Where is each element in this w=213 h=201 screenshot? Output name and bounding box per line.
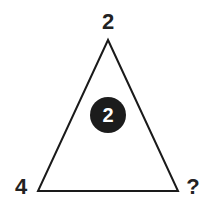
bottom-right-label: ?	[186, 174, 199, 199]
triangle-puzzle-diagram: 2 2 4 ?	[0, 0, 213, 201]
bottom-left-label: 4	[15, 174, 28, 199]
center-value: 2	[102, 104, 113, 126]
top-vertex-label: 2	[102, 9, 114, 34]
